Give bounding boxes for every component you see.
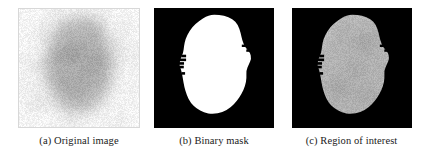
original-image-canvas: [18, 8, 140, 128]
panel-binary-mask: [154, 8, 274, 128]
figure-container: (a) Original image (b) Binary mask (c) R…: [0, 0, 427, 166]
region-of-interest-canvas: [292, 8, 412, 128]
binary-mask-canvas: [154, 8, 274, 128]
caption-panel-a: (a) Original image: [0, 134, 158, 148]
caption-panel-b: (b) Binary mask: [152, 134, 276, 148]
panel-region-of-interest: [292, 8, 412, 128]
caption-panel-c: (c) Region of interest: [276, 134, 427, 148]
panel-original-image: [18, 8, 140, 128]
